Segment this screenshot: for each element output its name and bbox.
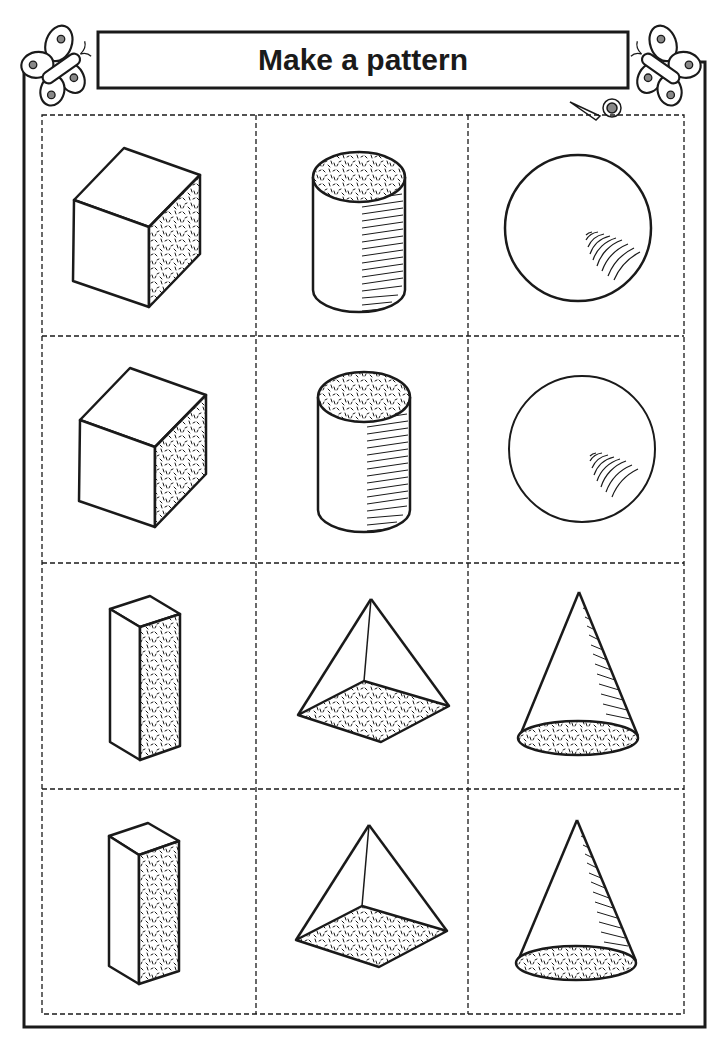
sphere-shape [509, 376, 655, 522]
card-cube-2[interactable] [42, 336, 256, 563]
card-square-pyramid-2[interactable] [256, 789, 468, 1014]
butterfly-left-icon [19, 22, 91, 108]
card-cube-1[interactable] [42, 115, 256, 336]
rectangular-prism-shape [109, 823, 179, 984]
card-sphere-2[interactable] [468, 336, 684, 563]
cylinder-shape [313, 152, 405, 312]
cylinder-shape [318, 372, 410, 532]
card-cylinder-1[interactable] [256, 115, 468, 336]
sphere-shape [505, 155, 651, 301]
card-square-pyramid-1[interactable] [256, 563, 468, 789]
butterfly-right-icon [631, 22, 703, 108]
worksheet: Make a pattern [0, 0, 707, 1037]
card-rectangular-prism-2[interactable] [42, 789, 256, 1014]
card-sphere-1[interactable] [468, 115, 684, 336]
card-cylinder-2[interactable] [256, 336, 468, 563]
card-cone-1[interactable] [468, 563, 684, 789]
rectangular-prism-shape [110, 596, 180, 760]
card-cone-2[interactable] [468, 789, 684, 1014]
card-rectangular-prism-1[interactable] [42, 563, 256, 789]
title-banner: Make a pattern [98, 32, 628, 88]
page-title: Make a pattern [258, 43, 468, 76]
